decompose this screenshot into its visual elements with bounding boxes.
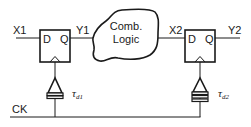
delay-2-label: τd2 <box>218 87 229 101</box>
delay-buffer-1-icon <box>47 78 63 99</box>
ff2-q-label: Q <box>205 33 214 45</box>
x2-label: X2 <box>169 24 182 36</box>
x1-label: X1 <box>13 24 26 36</box>
timing-diagram: X1 D Q Y1 Comb. Logic X2 D Q Y2 τd1 <box>0 0 251 127</box>
logic-line2: Logic <box>113 33 140 45</box>
flip-flop-2: D Q <box>185 30 215 62</box>
y2-label: Y2 <box>228 24 241 36</box>
ff1-q-label: Q <box>60 33 69 45</box>
ff2-d-label: D <box>188 33 196 45</box>
delay-1-label: τd1 <box>72 87 83 101</box>
logic-line1: Comb. <box>110 20 142 32</box>
ck-label: CK <box>12 103 28 115</box>
flip-flop-1: D Q <box>40 30 70 62</box>
y1-label: Y1 <box>76 24 89 36</box>
delay-buffer-2-icon <box>192 78 208 102</box>
ff1-d-label: D <box>43 33 51 45</box>
comb-logic-cloud: Comb. Logic <box>93 9 159 61</box>
